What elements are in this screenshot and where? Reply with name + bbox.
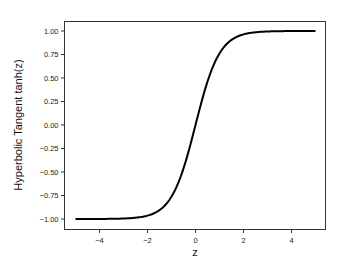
y-tick-label: 0.00 <box>44 121 59 130</box>
y-tick-label: −0.25 <box>40 144 59 153</box>
y-axis-ticks: 1.000.750.500.250.00−0.25−0.50−0.75−1.00 <box>40 27 65 224</box>
x-tick-label: 0 <box>193 236 197 245</box>
x-axis-ticks: −4−2024 <box>95 230 293 245</box>
x-tick-label: 4 <box>289 236 293 245</box>
y-tick-label: −0.50 <box>40 168 59 177</box>
y-tick-label: 0.25 <box>44 97 59 106</box>
y-tick-label: 0.75 <box>44 50 59 59</box>
y-axis-label: Hyperbolic Tangent tanh(z) <box>12 59 24 190</box>
tanh-curve <box>76 31 316 219</box>
x-tick-label: −2 <box>143 236 152 245</box>
y-tick-label: −0.75 <box>40 191 59 200</box>
x-axis-label: z <box>192 246 198 258</box>
chart: −4−2024 1.000.750.500.250.00−0.25−0.50−0… <box>0 0 342 272</box>
x-tick-label: −4 <box>95 236 104 245</box>
y-tick-label: −1.00 <box>40 215 59 224</box>
x-tick-label: 2 <box>241 236 245 245</box>
y-tick-label: 1.00 <box>44 27 59 36</box>
y-tick-label: 0.50 <box>44 74 59 83</box>
